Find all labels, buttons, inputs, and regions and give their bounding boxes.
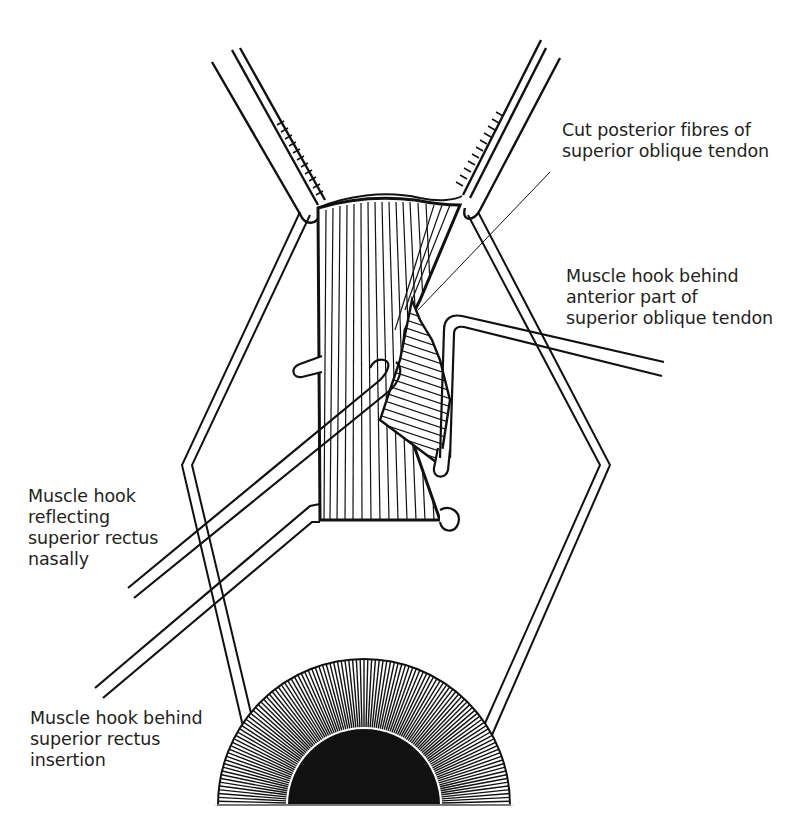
label-line: nasally: [28, 549, 158, 570]
label-line: insertion: [30, 750, 203, 771]
label-line: Cut posterior fibres of: [562, 120, 769, 141]
label-line: superior oblique tendon: [566, 308, 773, 329]
label-line: superior oblique tendon: [562, 141, 769, 162]
label-hook-insertion-sr: Muscle hook behind superior rectus inser…: [30, 708, 203, 771]
cornea: [214, 657, 514, 805]
label-line: Muscle hook behind: [30, 708, 203, 729]
hook-anterior-so: [440, 316, 664, 458]
label-line: anterior part of: [566, 287, 773, 308]
label-cut-posterior-fibres: Cut posterior fibres of superior oblique…: [562, 120, 769, 162]
label-line: superior rectus: [30, 729, 203, 750]
label-line: superior rectus: [28, 528, 158, 549]
diagram-canvas: Cut posterior fibres of superior oblique…: [0, 0, 803, 820]
label-hook-reflecting-sr: Muscle hook reflecting superior rectus n…: [28, 486, 158, 570]
label-line: Muscle hook: [28, 486, 158, 507]
label-line: Muscle hook behind: [566, 266, 773, 287]
retractor-left: [212, 48, 325, 223]
retractor-right: [463, 40, 560, 219]
label-line: reflecting: [28, 507, 158, 528]
label-hook-anterior-so: Muscle hook behind anterior part of supe…: [566, 266, 773, 329]
